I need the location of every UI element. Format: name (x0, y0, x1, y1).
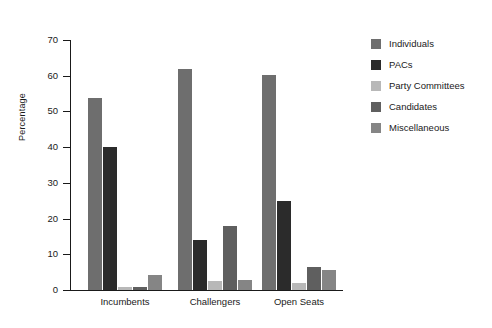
legend-label: Party Committees (389, 81, 465, 91)
y-axis-tick-label: 30 (14, 178, 58, 188)
legend-swatch-icon (371, 102, 381, 112)
bar (178, 69, 192, 290)
y-axis-tick-label: 60 (14, 71, 58, 81)
plot-area (70, 40, 342, 290)
legend-label: Miscellaneous (389, 123, 449, 133)
y-axis-tick (63, 290, 70, 291)
legend-swatch-icon (371, 60, 381, 70)
bar (133, 287, 147, 290)
bar (118, 287, 132, 290)
bar-group (262, 40, 340, 290)
x-axis-tick-label: Open Seats (239, 296, 359, 307)
y-axis-tick (63, 111, 70, 112)
legend-label: Individuals (389, 39, 434, 49)
y-axis-tick-label: 70 (14, 35, 58, 45)
legend-item[interactable]: Party Committees (371, 75, 489, 96)
legend-swatch-icon (371, 39, 381, 49)
legend-swatch-icon (371, 123, 381, 133)
bar (292, 283, 306, 290)
y-axis-tick-label: 10 (14, 249, 58, 259)
chart-legend: IndividualsPACsParty CommitteesCandidate… (371, 33, 489, 138)
bar (103, 147, 117, 290)
bar (223, 226, 237, 290)
y-axis-tick-label: 50 (14, 106, 58, 116)
legend-item[interactable]: Individuals (371, 33, 489, 54)
y-axis-tick (63, 147, 70, 148)
legend-swatch-icon (371, 81, 381, 91)
legend-item[interactable]: Candidates (371, 96, 489, 117)
legend-item[interactable]: PACs (371, 54, 489, 75)
bar (193, 240, 207, 290)
y-axis-tick-label: 0 (14, 285, 58, 295)
bar (88, 98, 102, 290)
y-axis-tick-label: 20 (14, 214, 58, 224)
legend-item[interactable]: Miscellaneous (371, 117, 489, 138)
legend-label: PACs (389, 60, 413, 70)
legend-label: Candidates (389, 102, 437, 112)
bar (322, 270, 336, 290)
bar (148, 275, 162, 290)
y-axis-tick (63, 254, 70, 255)
bar-group (88, 40, 166, 290)
bar-chart-figure: Percentage 010203040506070 IncumbentsCha… (0, 0, 492, 328)
y-axis-tick (63, 183, 70, 184)
bar-group (178, 40, 256, 290)
y-axis-tick (63, 40, 70, 41)
y-axis-tick (63, 219, 70, 220)
bar (262, 75, 276, 290)
bar (277, 201, 291, 290)
y-axis-tick-label: 40 (14, 142, 58, 152)
x-axis-line (70, 290, 343, 291)
bar (238, 280, 252, 290)
y-axis-tick (63, 76, 70, 77)
bar (208, 281, 222, 290)
bar (307, 267, 321, 290)
